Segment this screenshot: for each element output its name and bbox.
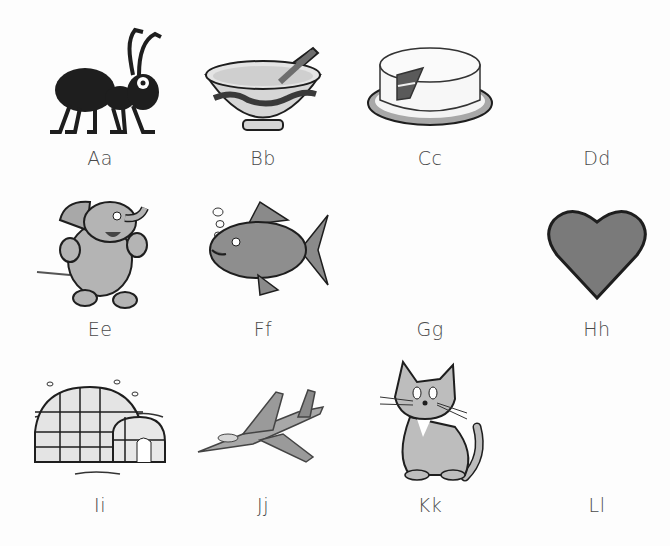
- letter-label: Kk: [355, 494, 505, 516]
- item-a: Aa: [25, 20, 175, 180]
- item-e: Ee: [25, 190, 175, 350]
- letter-label: Ii: [25, 494, 175, 516]
- letter-label: Aa: [25, 147, 175, 169]
- letter-label: Ll: [522, 494, 670, 516]
- item-b: Bb: [188, 20, 338, 180]
- item-l: Ll: [522, 362, 670, 532]
- letter-label: Bb: [188, 147, 338, 169]
- item-k: Kk: [355, 357, 505, 532]
- letter-label: Cc: [355, 147, 505, 169]
- cake-icon: [355, 20, 505, 150]
- item-j: Jj: [188, 362, 338, 532]
- item-c: Cc: [355, 20, 505, 180]
- letter-label: Dd: [522, 147, 670, 169]
- igloo-icon: [25, 362, 175, 492]
- elephant-icon: [25, 190, 175, 320]
- bowl-icon: [188, 20, 338, 150]
- letter-label: Ff: [188, 318, 338, 340]
- item-h: Hh: [522, 190, 670, 350]
- heart-icon: [522, 190, 670, 320]
- letter-label: Jj: [188, 494, 338, 516]
- item-f: Ff: [188, 190, 338, 350]
- ant-icon: [25, 20, 175, 150]
- fish-icon: [188, 190, 338, 320]
- letter-label: Ee: [25, 318, 175, 340]
- item-i: Ii: [25, 362, 175, 532]
- jet-plane-icon: [188, 362, 338, 492]
- letter-label: Hh: [522, 318, 670, 340]
- item-d: Dd: [522, 20, 670, 180]
- letter-label: Gg: [355, 318, 505, 340]
- kitten-icon: [355, 357, 505, 487]
- item-g: Gg: [355, 190, 505, 350]
